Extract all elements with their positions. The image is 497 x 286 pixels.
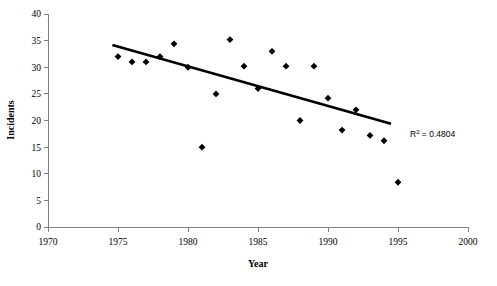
x-tick-label: 1970 <box>39 237 58 247</box>
data-point <box>143 59 150 66</box>
x-tick-label: 1980 <box>179 237 198 247</box>
data-point <box>395 179 402 186</box>
y-tick-label: 30 <box>32 63 42 73</box>
data-point <box>227 36 234 43</box>
axis-lines <box>48 14 468 228</box>
y-tick-label: 5 <box>36 196 41 206</box>
y-tick-label: 25 <box>32 89 42 99</box>
data-point <box>241 63 248 70</box>
x-tick-label: 2000 <box>459 237 478 247</box>
x-axis-title: Year <box>248 258 269 269</box>
data-point <box>297 117 304 124</box>
data-point <box>129 59 136 66</box>
x-tick-label: 1990 <box>319 237 338 247</box>
x-axis-tick-labels: 1970197519801985199019952000 <box>39 237 478 247</box>
data-point <box>339 127 346 134</box>
data-point <box>269 48 276 55</box>
y-tick-label: 0 <box>36 222 41 232</box>
r-squared-value: = 0.4804 <box>419 129 455 139</box>
data-point <box>213 90 220 97</box>
x-tick-label: 1975 <box>109 237 128 247</box>
data-point <box>381 137 388 144</box>
data-point <box>171 40 178 47</box>
y-tick-label: 10 <box>32 169 42 179</box>
y-axis-title: Incidents <box>5 100 16 140</box>
y-axis-tick-labels: 0510152025303540 <box>32 9 42 232</box>
y-tick-label: 35 <box>32 36 42 46</box>
y-tick-label: 15 <box>32 143 42 153</box>
trend-line <box>112 45 391 124</box>
y-tick-label: 40 <box>32 9 42 19</box>
x-tick-label: 1995 <box>389 237 408 247</box>
data-point <box>115 53 122 60</box>
x-tick-label: 1985 <box>249 237 268 247</box>
scatter-chart: 0510152025303540 19701975198019851990199… <box>0 0 497 286</box>
data-point <box>325 95 332 102</box>
r-squared-label: R2 = 0.4804 <box>410 129 455 140</box>
data-point <box>311 63 318 70</box>
chart-canvas: 0510152025303540 19701975198019851990199… <box>0 0 497 286</box>
data-point <box>283 63 290 70</box>
y-axis-ticks <box>44 14 48 227</box>
data-point <box>199 144 206 151</box>
data-point <box>367 132 374 139</box>
y-tick-label: 20 <box>32 116 42 126</box>
